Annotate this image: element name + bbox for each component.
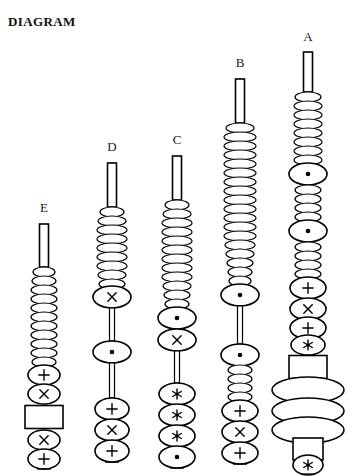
diagram-canvas: DIAGRAM EDCBA (0, 0, 353, 476)
chain-graphic-a (0, 0, 353, 476)
